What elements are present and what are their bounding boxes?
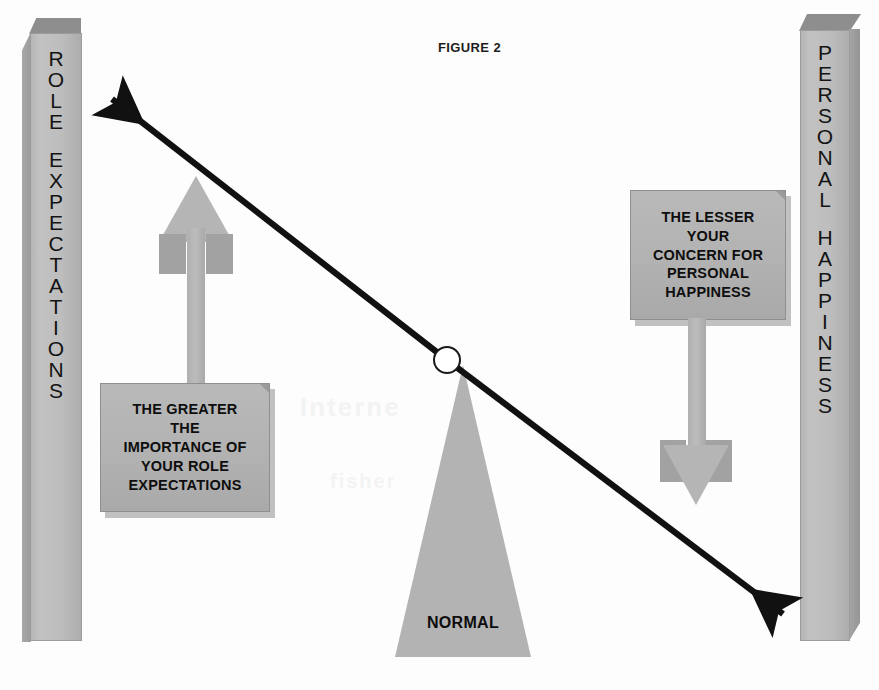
pivot-circle	[433, 346, 461, 374]
column-top-face	[799, 14, 861, 31]
fulcrum-label: NORMAL	[383, 614, 543, 632]
column-letter: N	[817, 147, 832, 168]
left-callout-box: THE GREATER THE IMPORTANCE OF YOUR ROLE …	[100, 383, 270, 512]
column-letter: N	[817, 332, 832, 353]
column-letter: P	[818, 269, 832, 290]
column-letter: C	[48, 233, 63, 254]
column-letter: I	[822, 311, 828, 332]
column-letter: T	[50, 254, 63, 275]
column-letter: O	[817, 126, 833, 147]
column-letter: T	[50, 296, 63, 317]
column-letter: E	[818, 63, 832, 84]
scan-bleed-artifact-b: fisher	[330, 470, 396, 493]
column-letter: A	[818, 168, 832, 189]
right-callout-box: THE LESSER YOUR CONCERN FOR PERSONAL HAP…	[630, 190, 786, 320]
column-letter: S	[818, 374, 832, 395]
figure-title: FIGURE 2	[0, 40, 879, 55]
column-letter: E	[49, 212, 63, 233]
arrow-barb-left	[159, 234, 186, 274]
column-letter: P	[49, 191, 63, 212]
callout-line: IMPORTANCE OF	[123, 438, 246, 457]
column-letter: E	[818, 353, 832, 374]
personal-happiness-column: P E R S O N A L H A P P I N E S S	[800, 30, 850, 641]
figure-canvas: Interne fisher FIGURE 2 R O L E E X P E …	[0, 0, 879, 690]
arrow-head-down-icon	[663, 445, 729, 505]
column-top-face	[29, 18, 81, 34]
column-letter: L	[50, 90, 62, 111]
arrow-shaft	[688, 318, 706, 458]
callout-line: PERSONAL	[667, 264, 749, 283]
column-letter: P	[818, 42, 832, 63]
column-letter: R	[48, 48, 63, 69]
callout-line: YOUR ROLE	[141, 457, 229, 476]
column-letter: E	[49, 149, 63, 170]
role-expectations-column: R O L E E X P E C T A T I O N S	[30, 33, 82, 641]
column-letter: R	[817, 84, 832, 105]
callout-line: HAPPINESS	[665, 283, 751, 302]
column-letter: L	[819, 189, 831, 210]
figure-title-text: FIGURE 2	[438, 40, 501, 55]
column-letter: H	[817, 227, 832, 248]
callout-bevel	[260, 384, 269, 393]
column-front-face: P E R S O N A L H A P P I N E S S	[800, 30, 850, 641]
column-letter: O	[48, 338, 64, 359]
scan-bleed-artifact-a: Interne	[300, 392, 401, 423]
callout-line: EXPECTATIONS	[128, 476, 241, 495]
column-letter: S	[818, 105, 832, 126]
column-letter: E	[49, 111, 63, 132]
callout-line: THE LESSER	[661, 208, 754, 227]
callout-bevel	[776, 191, 785, 200]
column-letter: A	[49, 275, 63, 296]
column-letter: N	[48, 359, 63, 380]
column-letter: S	[818, 395, 832, 416]
callout-line: CONCERN FOR	[653, 246, 763, 265]
column-letter: P	[818, 290, 832, 311]
column-letter: X	[49, 170, 63, 191]
callout-line: YOUR	[687, 227, 730, 246]
column-letter: I	[53, 317, 59, 338]
column-right-face	[849, 29, 860, 641]
arrow-shaft	[187, 228, 205, 388]
column-front-face: R O L E E X P E C T A T I O N S	[30, 33, 82, 641]
arrow-barb-right	[206, 234, 233, 274]
callout-line: THE	[170, 419, 200, 438]
right-down-arrow-icon	[660, 318, 750, 505]
column-letter: A	[818, 248, 832, 269]
column-letter: S	[49, 380, 63, 401]
callout-line: THE GREATER	[132, 400, 237, 419]
column-letter: O	[48, 69, 64, 90]
left-up-arrow-icon	[148, 176, 244, 388]
